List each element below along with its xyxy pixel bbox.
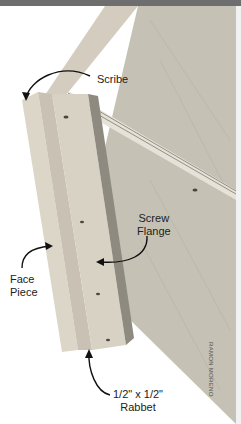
label-face-piece-line2: Piece	[10, 286, 38, 299]
label-scribe: Scribe	[97, 73, 128, 86]
rabbet-arrow	[89, 352, 110, 395]
label-rabbet-line2: Rabbet	[113, 401, 163, 414]
photo-credit: RAMON MORENO	[208, 342, 214, 397]
label-rabbet: 1/2" x 1/2" Rabbet	[113, 388, 163, 414]
label-face-piece: Face Piece	[10, 273, 38, 299]
right-edge-strip	[236, 6, 241, 424]
label-face-piece-line1: Face	[10, 273, 38, 286]
label-screw-flange-line2: Flange	[137, 225, 171, 238]
photo-canvas: Scribe Screw Flange Face Piece 1/2" x 1/…	[0, 0, 241, 424]
cabinet-illustration	[0, 0, 241, 424]
label-rabbet-line1: 1/2" x 1/2"	[113, 388, 163, 401]
label-screw-flange: Screw Flange	[137, 212, 171, 238]
label-screw-flange-line1: Screw	[137, 212, 171, 225]
